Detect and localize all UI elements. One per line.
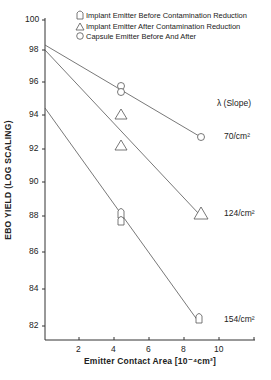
legend-item-capsule: Capsule Emitter Before And After — [86, 32, 196, 41]
y-tick-label: 94 — [29, 109, 38, 119]
y-tick-label: 88 — [29, 210, 38, 220]
slope-label-154: 154/cm² — [224, 314, 255, 324]
y-tick-label: 86 — [29, 246, 38, 256]
fit-line-124 — [45, 50, 199, 214]
y-axis-title: EBO YIELD (LOG SCALING) — [3, 120, 13, 240]
y-tick-label: 96 — [29, 76, 38, 86]
x-tick-label: 10 — [214, 344, 223, 354]
slope-header: λ (Slope) — [217, 98, 251, 108]
x-tick-label: 8 — [181, 344, 186, 354]
slope-label-70: 70/cm² — [224, 131, 250, 141]
y-tick-label: 92 — [29, 143, 38, 153]
y-tick-label: 90 — [29, 176, 38, 186]
y-tick-label: 100 — [25, 14, 39, 24]
x-tick-label: 6 — [146, 344, 151, 354]
slope-label-124: 124/cm² — [224, 208, 255, 218]
x-tick-label: 4 — [111, 344, 116, 354]
legend-item-implant-after: Implant Emitter After Contamination Redu… — [86, 22, 240, 31]
legend-item-implant-before: Implant Emitter Before Contamination Red… — [86, 11, 247, 20]
y-tick-label: 98 — [29, 44, 38, 54]
series-implant-before — [118, 209, 202, 324]
x-axis-title: Emitter Contact Area [10⁻⁴cm²] — [84, 356, 216, 366]
y-tick-label: 84 — [29, 283, 38, 293]
legend-markers — [76, 11, 84, 39]
series-implant-after — [115, 109, 208, 219]
x-tick-label: 2 — [76, 344, 81, 354]
y-tick-label: 82 — [29, 320, 38, 330]
